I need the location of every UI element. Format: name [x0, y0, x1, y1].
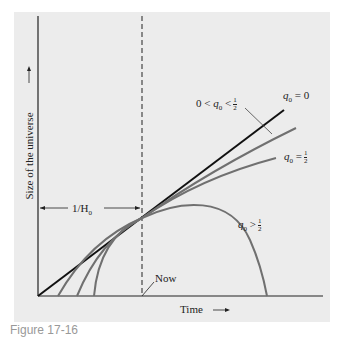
- now-label: Now: [155, 272, 176, 284]
- label-q0-over-half: q0 >12: [238, 218, 261, 233]
- label-q0-between: 0 < q0 <12: [196, 97, 237, 112]
- expansion-diagram: [0, 0, 342, 337]
- label-q0-zero: q0 = 0: [283, 89, 309, 104]
- x-axis-label: Time: [180, 303, 203, 315]
- figure-caption: Figure 17-16: [10, 323, 78, 337]
- label-q0-half: q0 =12: [284, 150, 307, 165]
- y-axis-label: Size of the universe: [23, 101, 35, 211]
- interval-label: 1/H0: [72, 202, 92, 217]
